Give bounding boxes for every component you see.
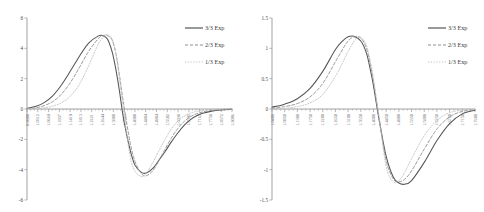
plot-area-right: 1.510.50-0.5-1-1.5 1.04001.08501.13001.1… xyxy=(242,0,484,212)
x-tick-label: 1.5350 xyxy=(409,114,414,126)
x-tick-label: 1.2200 xyxy=(320,114,325,126)
y-tick-group: 6420-2-4-6 xyxy=(19,15,27,203)
x-tick-label: 1.5502 xyxy=(165,114,170,126)
x-tick-labels: 0.99081.03121.06691.10371.14191.18131.22… xyxy=(25,113,235,126)
x-tick-label: 1.0850 xyxy=(282,114,287,126)
x-tick-label: 1.8372 xyxy=(219,114,224,126)
series-group xyxy=(27,34,232,176)
y-tick-label: -2 xyxy=(19,136,24,142)
x-tick-label: 1.6250 xyxy=(434,114,439,126)
x-tick-label: 1.1037 xyxy=(57,113,62,126)
chart-svg-left: 6420-2-4-6 0.99081.03121.06691.10371.141… xyxy=(0,0,242,212)
x-tick-label: 1.2644 xyxy=(100,113,105,126)
series-line xyxy=(27,34,232,176)
y-axis-right: 1.510.50-0.5-1-1.5 xyxy=(260,15,272,203)
chart-svg-right: 1.510.50-0.5-1-1.5 1.04001.08501.13001.1… xyxy=(242,0,484,212)
y-tick-label: 0 xyxy=(265,106,268,112)
chart-panel-right: 1.510.50-0.5-1-1.5 1.04001.08501.13001.1… xyxy=(242,0,484,212)
y-tick-label: 1 xyxy=(265,45,268,51)
x-tick-label: 1.2650 xyxy=(333,114,338,126)
y-tick-label: 0 xyxy=(20,106,23,112)
x-tick-group xyxy=(272,109,475,112)
x-tick-label: 0.9908 xyxy=(25,114,30,126)
x-tick-label: 1.7150 xyxy=(460,114,465,126)
x-tick-label: 1.4000 xyxy=(132,114,137,126)
x-tick-label: 1.4000 xyxy=(371,114,376,126)
series-line xyxy=(27,35,232,176)
legend-label: 3/3 Exp xyxy=(448,24,467,31)
x-tick-label: 1.0400 xyxy=(270,114,275,126)
x-tick-label: 1.1750 xyxy=(308,114,313,126)
figure-container: 6420-2-4-6 0.99081.03121.06691.10371.141… xyxy=(0,0,484,212)
y-tick-label: 1.5 xyxy=(262,15,269,21)
legend-left: 3/3 Exp2/3 Exp1/3 Exp xyxy=(185,24,224,65)
x-tick-label: 1.3550 xyxy=(358,114,363,126)
y-tick-label: -4 xyxy=(19,167,24,173)
y-tick-label: -6 xyxy=(19,197,24,203)
x-tick-label: 1.5800 xyxy=(422,114,427,126)
chart-panel-left: 6420-2-4-6 0.99081.03121.06691.10371.141… xyxy=(0,0,242,212)
plot-area-left: 6420-2-4-6 0.99081.03121.06691.10371.141… xyxy=(0,0,242,212)
y-tick-label: -1.5 xyxy=(260,197,269,203)
x-tick-label: 1.1419 xyxy=(68,114,73,126)
y-tick-label: 4 xyxy=(20,45,23,51)
y-tick-label: 2 xyxy=(20,76,23,82)
x-tick-label: 1.4450 xyxy=(384,114,389,126)
x-tick-label: 1.7758 xyxy=(208,114,213,126)
legend-label: 2/3 Exp xyxy=(205,41,224,48)
x-tick-label: 1.4900 xyxy=(396,114,401,126)
y-axis-left: 6420-2-4-6 xyxy=(19,15,27,203)
x-tick-label: 1.3080 xyxy=(111,114,116,126)
x-tick-label: 1.7600 xyxy=(473,114,478,126)
legend-right: 3/3 Exp2/3 Exp1/3 Exp xyxy=(428,24,467,65)
legend-label: 1/3 Exp xyxy=(448,58,467,65)
y-tick-label: 6 xyxy=(20,15,23,21)
x-tick-label: 1.7165 xyxy=(197,114,202,126)
legend-label: 1/3 Exp xyxy=(205,58,224,65)
y-tick-label: -1 xyxy=(264,167,269,173)
x-tick-label: 1.1300 xyxy=(295,114,300,126)
x-tick-label: 1.9006 xyxy=(230,113,235,126)
x-tick-label: 1.6038 xyxy=(176,114,181,126)
y-tick-group: 1.510.50-0.5-1-1.5 xyxy=(260,15,272,203)
x-tick-label: 1.0312 xyxy=(35,114,40,126)
legend-label: 3/3 Exp xyxy=(205,24,224,31)
x-tick-label: 1.2221 xyxy=(89,114,94,126)
legend-label: 2/3 Exp xyxy=(448,41,467,48)
y-tick-label: 0.5 xyxy=(262,76,269,82)
x-tick-labels: 1.04001.08501.13001.17501.22001.26501.31… xyxy=(270,114,478,126)
x-tick-label: 1.0669 xyxy=(46,114,51,126)
x-axis-right xyxy=(272,109,475,112)
x-tick-label: 1.4984 xyxy=(154,113,159,126)
x-tick-label: 1.3100 xyxy=(346,114,351,126)
y-tick-label: -0.5 xyxy=(260,136,269,142)
x-tick-label: 1.1813 xyxy=(78,114,83,126)
x-tick-label: 1.4484 xyxy=(143,113,148,126)
